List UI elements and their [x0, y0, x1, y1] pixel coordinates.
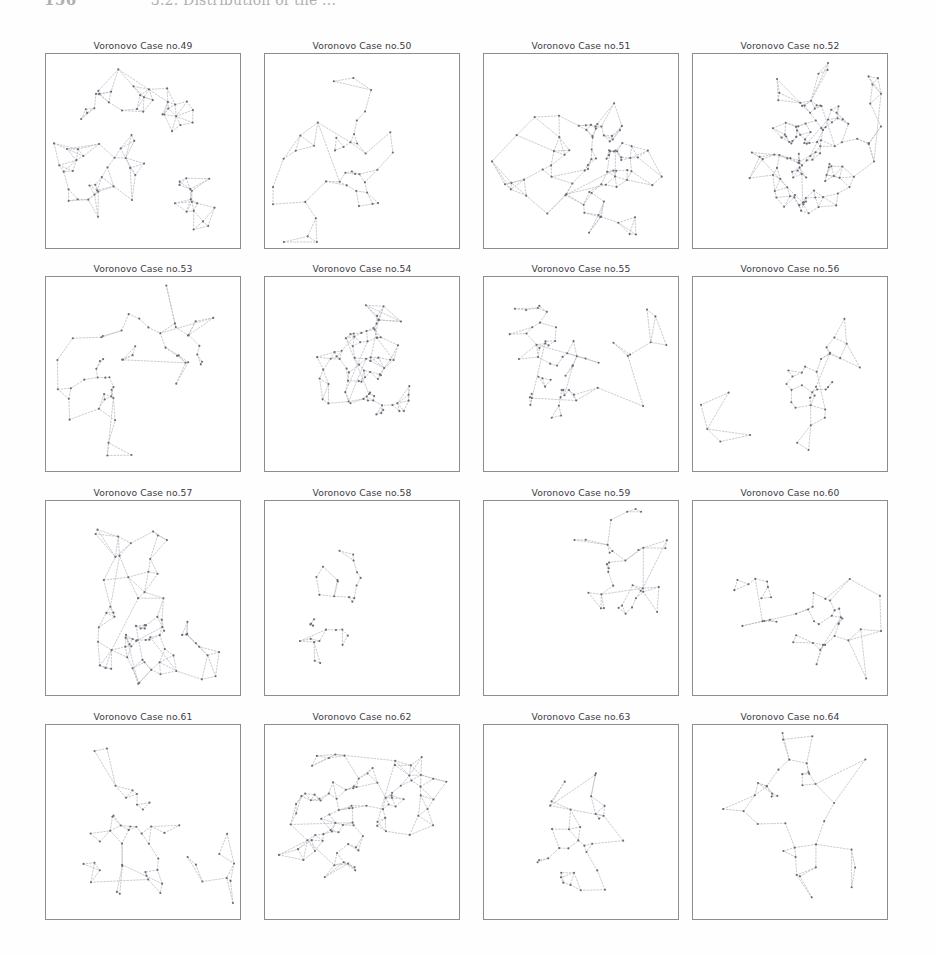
- panel-plot-area-case-58: [264, 500, 460, 696]
- panel-plot-area-case-51: [483, 53, 679, 249]
- panel-plot-area-case-49: [45, 53, 241, 249]
- network-graph-case-61: [46, 725, 241, 920]
- network-graph-case-55: [484, 277, 679, 472]
- network-graph-case-50: [265, 54, 460, 249]
- panel-case-53: Voronovo Case no.53: [45, 263, 241, 472]
- panel-case-61: Voronovo Case no.61: [45, 711, 241, 920]
- panel-plot-area-case-61: [45, 724, 241, 920]
- panel-title-case-57: Voronovo Case no.57: [45, 487, 241, 498]
- graph-edges: [96, 530, 220, 684]
- panel-case-55: Voronovo Case no.55: [483, 263, 679, 472]
- panel-plot-area-case-60: [692, 500, 888, 696]
- panel-case-60: Voronovo Case no.60: [692, 487, 888, 696]
- graph-edges: [57, 285, 213, 455]
- graph-edges: [574, 509, 666, 614]
- graph-edges: [510, 306, 667, 418]
- graph-nodes: [53, 68, 216, 230]
- network-graph-case-51: [484, 54, 679, 249]
- panel-case-63: Voronovo Case no.63: [483, 711, 679, 920]
- panel-plot-area-case-59: [483, 500, 679, 696]
- graph-nodes: [491, 102, 663, 235]
- panel-plot-area-case-55: [483, 276, 679, 472]
- network-graph-case-60: [693, 501, 888, 696]
- panel-title-case-63: Voronovo Case no.63: [483, 711, 679, 722]
- panel-title-case-59: Voronovo Case no.59: [483, 487, 679, 498]
- panel-case-56: Voronovo Case no.56: [692, 263, 888, 472]
- panel-title-case-60: Voronovo Case no.60: [692, 487, 888, 498]
- graph-nodes: [82, 747, 235, 904]
- panel-title-case-58: Voronovo Case no.58: [264, 487, 460, 498]
- panel-case-49: Voronovo Case no.49: [45, 40, 241, 249]
- panel-plot-area-case-50: [264, 53, 460, 249]
- panel-plot-area-case-52: [692, 53, 888, 249]
- network-graph-case-56: [693, 277, 888, 472]
- panel-plot-area-case-56: [692, 276, 888, 472]
- graph-nodes: [722, 732, 866, 898]
- graph-edges: [538, 773, 624, 890]
- graph-edges: [734, 579, 881, 679]
- panel-plot-area-case-62: [264, 724, 460, 920]
- panel-title-case-62: Voronovo Case no.62: [264, 711, 460, 722]
- panel-grid: Voronovo Case no.49Voronovo Case no.50Vo…: [0, 0, 936, 956]
- graph-nodes: [509, 305, 668, 419]
- network-graph-case-57: [46, 501, 241, 696]
- graph-edges: [750, 63, 881, 213]
- panel-case-51: Voronovo Case no.51: [483, 40, 679, 249]
- panel-case-64: Voronovo Case no.64: [692, 711, 888, 920]
- panel-case-58: Voronovo Case no.58: [264, 487, 460, 696]
- running-head: 156 3.2. Distribution of the ...: [44, 0, 564, 15]
- graph-nodes: [537, 772, 625, 891]
- panel-case-59: Voronovo Case no.59: [483, 487, 679, 696]
- graph-nodes: [272, 77, 394, 243]
- panel-title-case-52: Voronovo Case no.52: [692, 40, 888, 51]
- graph-edges: [701, 319, 860, 450]
- panel-title-case-56: Voronovo Case no.56: [692, 263, 888, 274]
- panel-title-case-53: Voronovo Case no.53: [45, 263, 241, 274]
- page-folio: 156: [44, 0, 77, 9]
- panel-plot-area-case-54: [264, 276, 460, 472]
- panel-plot-area-case-63: [483, 724, 679, 920]
- panel-title-case-64: Voronovo Case no.64: [692, 711, 888, 722]
- network-graph-case-53: [46, 277, 241, 472]
- graph-nodes: [56, 284, 214, 456]
- panel-case-57: Voronovo Case no.57: [45, 487, 241, 696]
- network-graph-case-62: [265, 725, 460, 920]
- panel-title-case-51: Voronovo Case no.51: [483, 40, 679, 51]
- panel-title-case-50: Voronovo Case no.50: [264, 40, 460, 51]
- panel-title-case-55: Voronovo Case no.55: [483, 263, 679, 274]
- panel-case-54: Voronovo Case no.54: [264, 263, 460, 472]
- graph-nodes: [299, 550, 362, 664]
- panel-title-case-49: Voronovo Case no.49: [45, 40, 241, 51]
- network-graph-case-59: [484, 501, 679, 696]
- graph-edges: [84, 748, 234, 902]
- network-graph-case-58: [265, 501, 460, 696]
- running-head-title: 3.2. Distribution of the ...: [151, 0, 336, 8]
- graph-edges: [273, 78, 393, 242]
- panel-plot-area-case-57: [45, 500, 241, 696]
- panel-case-52: Voronovo Case no.52: [692, 40, 888, 249]
- graph-nodes: [95, 529, 221, 685]
- panel-plot-area-case-53: [45, 276, 241, 472]
- network-graph-case-54: [265, 277, 460, 472]
- panel-title-case-54: Voronovo Case no.54: [264, 263, 460, 274]
- graph-nodes: [733, 578, 882, 680]
- graph-edges: [300, 551, 361, 663]
- graph-edges: [723, 733, 865, 897]
- network-graph-case-63: [484, 725, 679, 920]
- network-graph-case-49: [46, 54, 241, 249]
- network-graph-case-64: [693, 725, 888, 920]
- network-graph-case-52: [693, 54, 888, 249]
- panel-case-50: Voronovo Case no.50: [264, 40, 460, 249]
- panel-title-case-61: Voronovo Case no.61: [45, 711, 241, 722]
- panel-plot-area-case-64: [692, 724, 888, 920]
- graph-nodes: [278, 753, 448, 878]
- graph-edges: [279, 754, 446, 877]
- graph-edges: [492, 103, 662, 234]
- panel-case-62: Voronovo Case no.62: [264, 711, 460, 920]
